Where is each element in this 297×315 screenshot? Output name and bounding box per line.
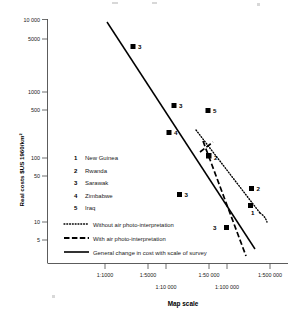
legend-entry-general: General change in cost with scale of sur…	[64, 250, 207, 256]
list-item: 4 Zimbabwe	[74, 193, 113, 199]
y-tick-5: 5	[37, 237, 40, 243]
key-number: 3	[74, 180, 78, 186]
scan-speck	[257, 3, 260, 6]
y-tick-10: 10	[34, 219, 40, 225]
legend-label: Without air photo-interpretation	[93, 222, 174, 228]
list-item: 5 Iraq	[74, 205, 95, 211]
x-tick-labels: 1:1000 1:5000 1:50 000 1:500 000 1:10 00…	[97, 272, 282, 290]
trend-line-without-photo	[196, 130, 260, 213]
x-tick-1-50000: 1:50 000	[199, 272, 220, 278]
key-number: 1	[74, 155, 78, 161]
key-label: Sarawak	[85, 180, 109, 186]
x-tick-1-500000: 1:500 000	[258, 272, 282, 278]
list-item: 3 Sarawak	[74, 180, 109, 186]
point-label: 5	[213, 107, 217, 114]
legend-label: With air photo-interpretation	[93, 236, 166, 242]
legend-label: General change in cost with scale of sur…	[93, 250, 207, 256]
point-label: 4	[174, 129, 178, 136]
marker-square	[206, 108, 211, 113]
data-point: 2	[249, 185, 261, 192]
data-point: 5	[206, 107, 218, 114]
x-tick-1-1000: 1:1000	[97, 272, 114, 278]
x-axis-title: Map scale	[168, 300, 199, 308]
scan-speck	[112, 2, 118, 4]
marker-square	[224, 225, 229, 230]
marker-square	[131, 44, 136, 49]
key-number: 4	[74, 193, 78, 199]
y-tick-1000: 1000	[28, 89, 40, 95]
x-axis	[48, 264, 289, 270]
legend-entry-without-photo: Without air photo-interpretation	[64, 222, 174, 228]
x-tick-1-5000: 1:5000	[140, 272, 157, 278]
key-label: New Guinea	[85, 155, 119, 161]
key-number: 2	[74, 168, 78, 174]
y-tick-50: 50	[34, 173, 40, 179]
country-key-list: 1 New Guinea 2 Rwanda 3 Sarawak 4 Zimbab…	[74, 155, 119, 211]
point-label: 3	[138, 43, 142, 50]
point-label: 2	[214, 154, 218, 161]
data-point: 3	[213, 224, 229, 231]
y-tick-500: 500	[31, 107, 40, 113]
trend-line-general	[107, 22, 255, 249]
data-point: 3	[172, 102, 184, 109]
line-style-key: Without air photo-interpretation With ai…	[64, 222, 207, 256]
key-label: Iraq	[85, 205, 95, 211]
y-axis-title: Real costs $US 1960/km²	[18, 134, 25, 207]
point-label: 1	[251, 209, 255, 216]
marker-square	[167, 130, 172, 135]
data-point: 3	[177, 191, 189, 198]
marker-square	[177, 192, 182, 197]
legend-entry-with-photo: With air photo-interpretation	[64, 236, 166, 242]
chart-svg: 10 000 5000 1000 500 100 50 10 5 Real co…	[0, 0, 297, 315]
data-point: 2	[206, 153, 218, 161]
marker-square	[172, 103, 177, 108]
y-tick-10000: 10 000	[24, 17, 41, 23]
scan-speck	[152, 2, 157, 4]
y-axis	[42, 19, 48, 263]
y-tick-labels: 10 000 5000 1000 500 100 50 10 5	[24, 17, 41, 244]
y-tick-100: 100	[31, 155, 40, 161]
x-tick-1-10000: 1:10 000	[156, 284, 177, 290]
chart-figure: 10 000 5000 1000 500 100 50 10 5 Real co…	[0, 0, 297, 315]
marker-square	[249, 186, 254, 191]
point-label: 3	[213, 224, 217, 231]
data-point: 3	[131, 43, 143, 50]
key-number: 5	[74, 205, 78, 211]
scan-speck	[52, 295, 55, 298]
data-point: 4	[167, 129, 179, 136]
list-item: 1 New Guinea	[74, 155, 119, 161]
trend-line-without-photo-tail	[260, 213, 267, 222]
point-label: 3	[179, 102, 183, 109]
y-tick-5000: 5000	[28, 36, 40, 42]
key-label: Zimbabwe	[85, 193, 113, 199]
key-label: Rwanda	[85, 168, 108, 174]
x-tick-1-100000: 1:100 000	[215, 284, 239, 290]
marker-square	[206, 153, 212, 159]
marker-square	[248, 203, 253, 208]
point-label: 2	[257, 185, 261, 192]
point-label: 3	[185, 191, 189, 198]
list-item: 2 Rwanda	[74, 168, 108, 174]
